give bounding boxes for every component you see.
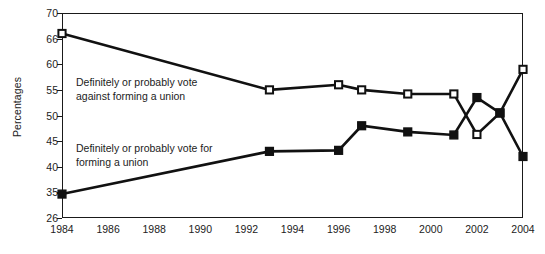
y-tick-label-55: 55: [18, 85, 58, 95]
y-tick-mark-60: [57, 64, 62, 65]
y-tick-mark-50: [57, 116, 62, 117]
x-tick-label-1998: 1998: [363, 223, 407, 235]
plot-area: [62, 13, 523, 218]
x-tick-label-2002: 2002: [455, 223, 499, 235]
y-tick-mark-35: [57, 192, 62, 193]
annotation-vote-for: Definitely or probably vote for forming …: [76, 142, 213, 169]
y-tick-label-50: 50: [18, 111, 58, 121]
x-tick-label-2004: 2004: [501, 223, 545, 235]
y-tick-mark-45: [57, 141, 62, 142]
y-tick-label-70: 70: [18, 8, 58, 18]
x-tick-label-1988: 1988: [132, 223, 176, 235]
x-tick-label-1996: 1996: [317, 223, 361, 235]
x-tick-label-1994: 1994: [271, 223, 315, 235]
y-tick-mark-26: [57, 218, 62, 219]
x-tick-label-1990: 1990: [178, 223, 222, 235]
y-tick-mark-40: [57, 167, 62, 168]
chart-container: Percentages 706660555045403526 198419861…: [0, 0, 545, 254]
y-tick-label-45: 45: [18, 136, 58, 146]
x-tick-label-1986: 1986: [86, 223, 130, 235]
y-tick-label-26: 26: [18, 213, 58, 223]
x-tick-label-1984: 1984: [40, 223, 84, 235]
y-tick-mark-70: [57, 13, 62, 14]
y-tick-label-35: 35: [18, 187, 58, 197]
x-tick-label-1992: 1992: [224, 223, 268, 235]
y-tick-label-66: 66: [18, 34, 58, 44]
y-tick-label-40: 40: [18, 162, 58, 172]
annotation-vote-against: Definitely or probably vote against form…: [76, 76, 197, 103]
y-tick-label-60: 60: [18, 59, 58, 69]
x-tick-label-2000: 2000: [409, 223, 453, 235]
y-tick-mark-66: [57, 39, 62, 40]
y-tick-mark-55: [57, 90, 62, 91]
